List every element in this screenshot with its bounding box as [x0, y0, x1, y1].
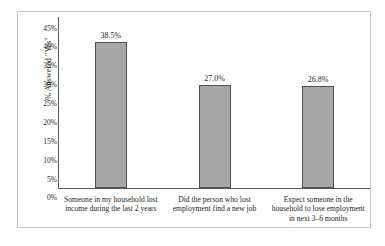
y-axis-tick-labels: 45% 40% 35% 30% 25% 20% 15% 10% 5% 0%: [38, 25, 57, 198]
y-tick-label: 15%: [38, 138, 57, 146]
y-tick-label: 20%: [38, 119, 57, 127]
bar-value-label: 27.0%: [163, 74, 267, 83]
chart-frame: % Answered "Yes" 45% 40% 35% 30% 25% 20%…: [17, 11, 371, 228]
x-category-label: Did the person who lost employment find …: [163, 195, 267, 223]
x-category-label: Someone in my household lost income duri…: [59, 195, 163, 223]
x-axis-category-labels: Someone in my household lost income duri…: [59, 195, 370, 223]
y-tick-label: 35%: [38, 62, 57, 70]
bar-slot: 38.5%: [59, 17, 163, 188]
y-tick-label: 0%: [38, 194, 57, 202]
bar-value-label: 26.8%: [266, 75, 370, 84]
y-tick-label: 10%: [38, 157, 57, 165]
x-category-label: Expect someone in the household to lose …: [266, 195, 370, 223]
plot-area: 38.5% 27.0% 26.8%: [58, 17, 370, 193]
x-axis-line: [58, 188, 370, 189]
bar-chart-figure: % Answered "Yes" 45% 40% 35% 30% 25% 20%…: [0, 0, 385, 246]
bar-series: 38.5% 27.0% 26.8%: [59, 17, 370, 188]
bar[interactable]: [302, 86, 334, 188]
y-tick-label: 45%: [38, 25, 57, 33]
y-tick-label: 40%: [38, 43, 57, 51]
bar[interactable]: [95, 42, 127, 188]
bar-slot: 26.8%: [266, 17, 370, 188]
y-tick-label: 25%: [38, 100, 57, 108]
y-tick-label: 30%: [38, 81, 57, 89]
bar-value-label: 38.5%: [59, 31, 163, 40]
y-tick-label: 5%: [38, 176, 57, 184]
bar-slot: 27.0%: [163, 17, 267, 188]
bar[interactable]: [199, 85, 231, 188]
